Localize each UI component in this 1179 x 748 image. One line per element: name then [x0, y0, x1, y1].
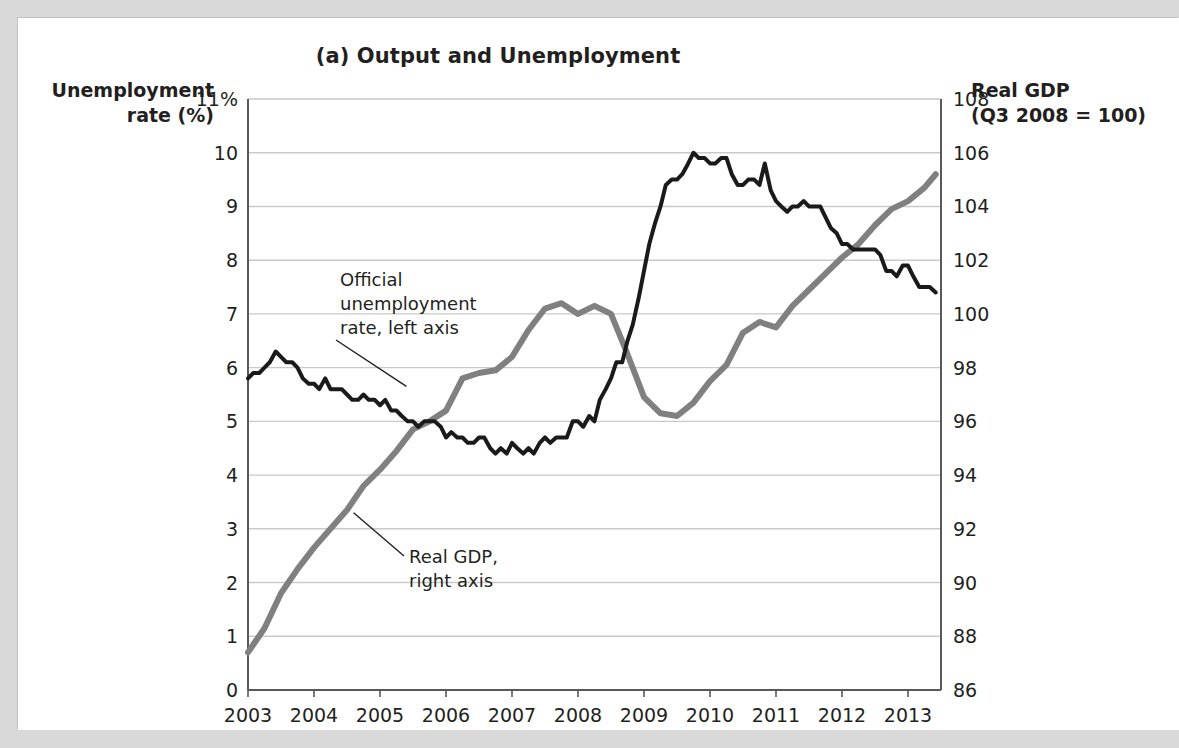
x-tick-2012: 2012 [818, 704, 866, 726]
annotation-unemployment-line1: Official [340, 269, 403, 290]
left-tick-0: 0 [226, 679, 238, 701]
left-tick-2: 2 [226, 572, 238, 594]
right-tick-102: 102 [953, 249, 989, 271]
right-tick-92: 92 [953, 518, 977, 540]
x-tick-2008: 2008 [554, 704, 602, 726]
left-tick-4: 4 [226, 464, 238, 486]
right-tick-96: 96 [953, 410, 977, 432]
right-tick-104: 104 [953, 195, 989, 217]
x-tick-2011: 2011 [752, 704, 800, 726]
figure-output-and-unemployment: (a) Output and Unemployment Unemployment… [18, 18, 1179, 730]
annotation-gdp-line1: Real GDP, [409, 546, 498, 567]
right-tick-90: 90 [953, 572, 977, 594]
leader-line-unemployment [336, 340, 406, 386]
right-tick-94: 94 [953, 464, 977, 486]
annotation-gdp: Real GDP, right axis [354, 513, 498, 591]
left-tick-5: 5 [226, 410, 238, 432]
right-tick-106: 106 [953, 142, 989, 164]
x-tick-2013: 2013 [884, 704, 932, 726]
left-tick-1: 1 [226, 625, 238, 647]
left-tick-10: 10 [214, 142, 238, 164]
x-tick-2007: 2007 [488, 704, 536, 726]
annotation-gdp-line2: right axis [409, 570, 493, 591]
right-tick-100: 100 [953, 303, 989, 325]
left-tick-6: 6 [226, 357, 238, 379]
right-tick-88: 88 [953, 625, 977, 647]
x-tick-2004: 2004 [290, 704, 338, 726]
x-tick-2010: 2010 [686, 704, 734, 726]
x-axis-ticks [248, 690, 908, 697]
left-tick-9: 9 [226, 195, 238, 217]
gridlines [248, 99, 941, 690]
annotation-unemployment-line2: unemployment [340, 293, 477, 314]
left-tick-7: 7 [226, 303, 238, 325]
x-tick-2006: 2006 [422, 704, 470, 726]
left-tick-8: 8 [226, 249, 238, 271]
chart-plot: 01234567891011% 868890929496981001021041… [18, 18, 1179, 730]
right-tick-108: 108 [953, 88, 989, 110]
figure-card: (a) Output and Unemployment Unemployment… [18, 18, 1179, 730]
left-tick-11%: 11% [196, 88, 238, 110]
x-tick-2009: 2009 [620, 704, 668, 726]
leader-line-gdp [354, 513, 404, 556]
x-tick-2003: 2003 [224, 704, 272, 726]
left-axis-ticklabels: 01234567891011% [196, 88, 238, 701]
annotation-unemployment: Official unemployment rate, left axis [336, 269, 477, 386]
right-tick-98: 98 [953, 357, 977, 379]
right-axis-ticklabels: 86889092949698100102104106108 [953, 88, 989, 701]
x-tick-2005: 2005 [356, 704, 404, 726]
left-tick-3: 3 [226, 518, 238, 540]
x-axis-ticklabels: 2003200420052006200720082009201020112012… [224, 704, 932, 726]
series-line-real-gdp [248, 174, 936, 652]
page-background: (a) Output and Unemployment Unemployment… [0, 0, 1179, 748]
axis-lines [248, 99, 941, 690]
annotation-unemployment-line3: rate, left axis [340, 317, 459, 338]
right-tick-86: 86 [953, 679, 977, 701]
